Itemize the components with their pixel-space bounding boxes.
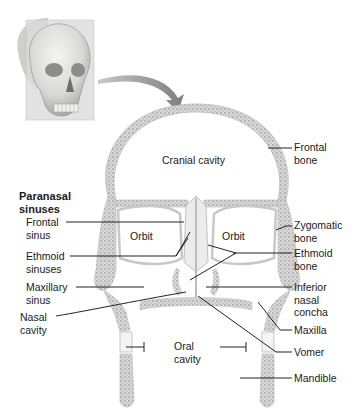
label-line: bone [294, 154, 327, 167]
label-line: sinus [26, 294, 67, 307]
label-orbit-right: Orbit [222, 230, 245, 243]
label-maxillary-sinus: Maxillary sinus [26, 281, 67, 306]
label-line: Ethmoid [26, 250, 65, 263]
heading-paranasal-sinuses: Paranasal sinuses [19, 190, 71, 215]
label-line: bone [294, 232, 342, 245]
label-line: Ethmoid [294, 247, 333, 260]
label-ethmoid-bone: Ethmoid bone [294, 247, 333, 272]
label-line: Oral [174, 340, 201, 353]
label-frontal-bone: Frontal bone [294, 141, 327, 166]
orbit-icon [45, 63, 63, 77]
hard-palate [140, 298, 252, 311]
zygomatic-bone-left [94, 196, 116, 290]
label-vomer: Vomer [294, 346, 324, 359]
label-line: nasal [294, 294, 328, 307]
heading-line: sinuses [19, 203, 71, 216]
label-line: cavity [20, 324, 47, 337]
label-oral-cavity: Oral cavity [174, 340, 201, 365]
skull-inset [17, 18, 94, 120]
label-mandible: Mandible [294, 372, 337, 385]
label-line: sinuses [26, 263, 65, 276]
label-frontal-sinus: Frontal sinus [26, 216, 59, 241]
zygomatic-bone-right [278, 200, 300, 290]
label-line: Frontal [294, 141, 327, 154]
label-maxilla: Maxilla [294, 324, 327, 337]
label-orbit-left: Orbit [130, 230, 153, 243]
label-line: Frontal [26, 216, 59, 229]
label-line: bone [294, 260, 333, 273]
orbit-icon [71, 63, 85, 77]
label-nasal-cavity: Nasal cavity [20, 311, 47, 336]
label-line: concha [294, 306, 328, 319]
frontal-bone [106, 104, 289, 200]
label-line: Maxillary [26, 281, 67, 294]
label-zygomatic-bone: Zygomatic bone [294, 219, 342, 244]
heading-line: Paranasal [19, 190, 71, 203]
label-line: Zygomatic [294, 219, 342, 232]
label-cranial-cavity: Cranial cavity [162, 154, 225, 167]
label-line: cavity [174, 353, 201, 366]
label-line: Nasal [20, 311, 47, 324]
label-inferior-nasal-concha: Inferior nasal concha [294, 281, 328, 319]
label-line: Inferior [294, 281, 328, 294]
label-line: sinus [26, 229, 59, 242]
label-ethmoid-sinuses: Ethmoid sinuses [26, 250, 65, 275]
